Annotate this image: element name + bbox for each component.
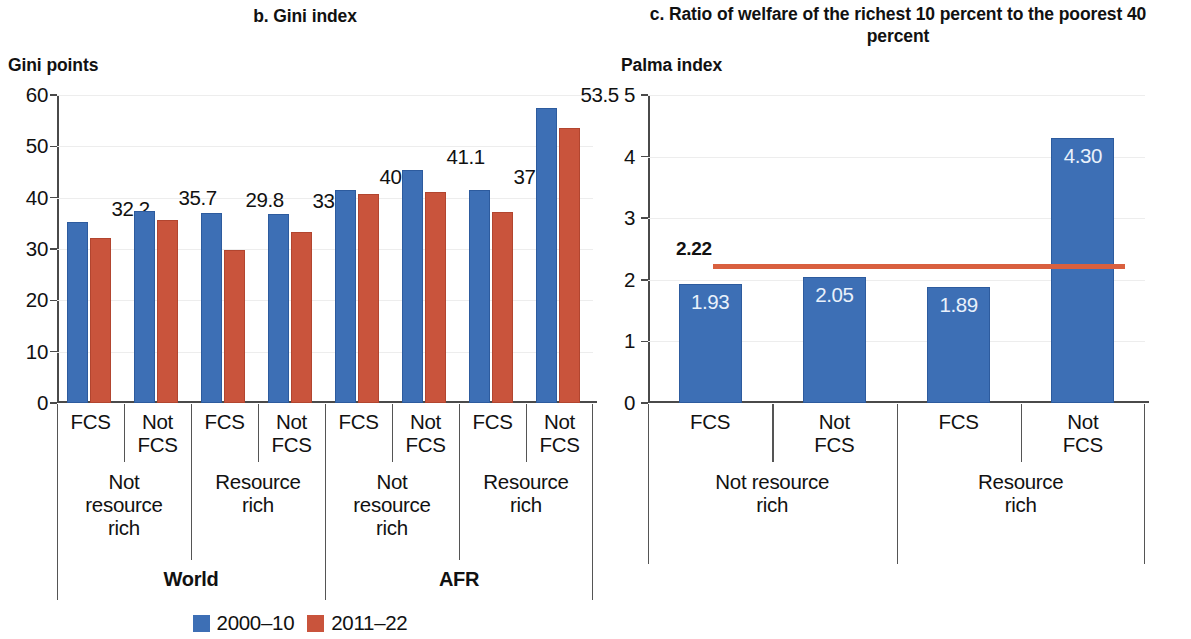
category-label-level2: Notresourcerich [57, 470, 191, 539]
category-separator [459, 404, 460, 560]
y-axis-tick-label: 0 [624, 391, 635, 415]
bar-2000-10 [67, 222, 88, 403]
y-axis-tick [50, 94, 57, 96]
bar-2011-22 [559, 128, 580, 403]
y-axis-tick [50, 146, 57, 148]
bar-data-label: 35.7 [179, 186, 217, 210]
category-label-level1: FCS [897, 410, 1021, 433]
category-label-level2: Resourcerich [191, 470, 325, 516]
bar-2000-10 [268, 214, 289, 403]
category-label-level1: FCS [459, 410, 526, 433]
category-label-level2: Resourcerich [459, 470, 593, 516]
panel-b-title: b. Gini index [120, 5, 490, 27]
category-label-level1: NotFCS [258, 410, 325, 456]
bar-2011-22 [157, 220, 178, 403]
y-axis-tick-label: 2 [624, 268, 635, 292]
gridline [57, 146, 593, 147]
panel-c-axis-unit: Palma index [621, 55, 722, 76]
y-axis-tick-label: 3 [624, 206, 635, 230]
category-separator [124, 404, 125, 462]
panel-b-y-axis-labels: 0102030405060 [0, 95, 48, 403]
category-label-level1: FCS [325, 410, 392, 433]
panel-b-plot-area: 32.235.729.833.440.741.137.353.5 [57, 95, 593, 403]
bar-2011-22 [224, 250, 245, 403]
category-label-level1: NotFCS [392, 410, 459, 456]
gridline [648, 95, 1145, 96]
bar-2000-10 [134, 211, 155, 404]
gridline [57, 95, 593, 96]
y-axis-tick-label: 5 [624, 83, 635, 107]
y-axis-tick-label: 50 [26, 134, 48, 158]
y-axis-tick [50, 197, 57, 199]
category-label-level1: FCS [191, 410, 258, 433]
y-axis-tick-label: 0 [37, 391, 48, 415]
category-separator [1021, 404, 1022, 462]
category-label-level2: Not resourcerich [648, 470, 897, 516]
panel-c-y-axis-line [648, 95, 650, 403]
y-axis-tick [641, 156, 648, 158]
category-frame-line [1144, 404, 1145, 564]
category-label-level2: Resourcerich [897, 470, 1146, 516]
legend-label-2011-22: 2011–22 [331, 611, 407, 635]
panel-c-title: c. Ratio of welfare of the richest 10 pe… [620, 3, 1176, 47]
bar-2000-10 [335, 190, 356, 403]
category-separator [526, 404, 527, 462]
bar-palma [1051, 138, 1114, 403]
bar-2000-10 [201, 213, 222, 403]
y-axis-tick [50, 402, 57, 404]
y-axis-tick [641, 217, 648, 219]
y-axis-tick [50, 248, 57, 250]
y-axis-tick-label: 30 [26, 237, 48, 261]
bar-data-label: 1.89 [927, 293, 990, 317]
panel-gini-index: b. Gini index Gini points 0102030405060 … [0, 0, 600, 639]
category-frame-line [325, 404, 326, 600]
category-label-level1: NotFCS [772, 410, 896, 456]
y-axis-tick-label: 1 [624, 329, 635, 353]
bar-data-label: 41.1 [447, 145, 485, 169]
y-axis-tick [50, 300, 57, 302]
legend-item: 2000–10 [193, 611, 295, 635]
y-axis-tick-label: 4 [624, 145, 635, 169]
category-frame-line [648, 404, 649, 564]
category-label-level1: FCS [648, 410, 772, 433]
category-frame-line [897, 404, 898, 564]
bar-data-label: 1.93 [679, 290, 742, 314]
bar-2011-22 [291, 232, 312, 403]
reference-line [713, 264, 1125, 269]
category-frame-line [592, 404, 593, 600]
panel-b-category-axis: FCSNotFCSFCSNotFCSFCSNotFCSFCSNotFCSNotr… [57, 404, 593, 600]
y-axis-tick-label: 10 [26, 340, 48, 364]
category-separator [392, 404, 393, 462]
category-frame-line [57, 404, 58, 600]
legend-swatch-2000-10 [193, 615, 210, 632]
bar-2011-22 [358, 194, 379, 403]
panel-c-y-axis-labels: 012345 [605, 95, 635, 403]
panel-c-plot-area: 1.932.051.894.302.22 [648, 95, 1145, 403]
bar-2000-10 [402, 170, 423, 403]
panel-b-axis-unit: Gini points [8, 55, 98, 76]
y-axis-tick [50, 351, 57, 353]
category-label-level1: FCS [57, 410, 124, 433]
legend-label-2000-10: 2000–10 [217, 611, 295, 635]
bar-data-label: 29.8 [246, 188, 284, 212]
category-separator [772, 404, 773, 462]
category-separator [258, 404, 259, 462]
category-label-level1: NotFCS [526, 410, 593, 456]
category-separator [191, 404, 192, 560]
bar-data-label: 4.30 [1051, 144, 1114, 168]
bar-data-label: 2.05 [803, 283, 866, 307]
y-axis-tick [641, 402, 648, 404]
y-axis-tick-label: 20 [26, 288, 48, 312]
panel-c-category-axis: FCSNotFCSFCSNotFCSNot resourcerichResour… [648, 404, 1145, 564]
bar-2011-22 [425, 192, 446, 403]
bar-2011-22 [492, 212, 513, 403]
y-axis-tick [641, 94, 648, 96]
bar-2000-10 [536, 108, 557, 403]
category-label-level3: AFR [325, 568, 593, 591]
y-axis-tick-label: 60 [26, 83, 48, 107]
category-label-level2: Notresourcerich [325, 470, 459, 539]
category-label-level1: NotFCS [124, 410, 191, 456]
bar-2000-10 [469, 190, 490, 403]
y-axis-tick [641, 341, 648, 343]
reference-line-label: 2.22 [676, 238, 712, 260]
